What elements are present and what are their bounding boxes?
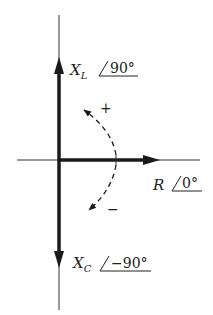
negative-rotation-label: −	[107, 201, 119, 217]
svg-text:XL: XL	[69, 61, 88, 81]
xl-label: XL 90°	[69, 60, 138, 81]
xl-angle: 90°	[110, 60, 135, 76]
xc-subscript: C	[84, 263, 92, 274]
svg-text:XC: XC	[72, 254, 92, 274]
positive-rotation-label: +	[100, 100, 112, 116]
arrowhead-up-icon	[54, 57, 64, 74]
xc-angle: −90°	[111, 255, 148, 271]
xl-phasor	[54, 57, 64, 160]
positive-rotation-arc	[84, 110, 116, 155]
xc-phasor	[54, 160, 64, 268]
r-phasor	[59, 155, 160, 165]
r-angle: 0°	[182, 175, 198, 191]
xc-label: XC −90°	[72, 254, 151, 274]
r-label: R 0°	[152, 175, 202, 194]
phasor-diagram: + − XL 90° R 0° XC −90°	[0, 0, 213, 315]
r-symbol: R	[152, 176, 164, 194]
arrowhead-down-icon	[54, 251, 64, 268]
xl-subscript: L	[80, 70, 88, 81]
arrowhead-right-icon	[143, 155, 160, 165]
